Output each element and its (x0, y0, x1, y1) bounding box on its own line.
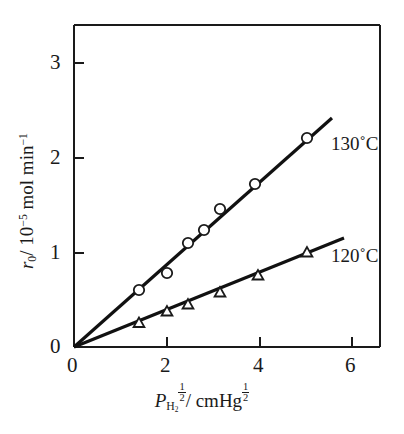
x-axis-exponent-half: 12 (178, 382, 185, 403)
y-tick-label-2: 2 (50, 147, 61, 168)
y-tick-label-1: 1 (50, 242, 61, 263)
x-tick-label-6: 6 (345, 355, 356, 376)
axis-frame (74, 25, 380, 347)
x-tick-label-0: 0 (67, 355, 78, 376)
figure-container: 3 2 1 0 0 2 4 6 130˚C 120˚C PH212/ cmHg1… (0, 0, 404, 434)
y-axis-subscript: 0 (26, 256, 39, 262)
series-label-120c: 120˚C (331, 246, 379, 265)
y-axis-symbol: r (16, 262, 37, 269)
x-axis-symbol: P (155, 390, 167, 411)
y-axis-rest: / 10 (16, 227, 37, 256)
y-axis-exponent: −5 (17, 214, 30, 227)
y-axis-ticks (74, 63, 84, 253)
series-label-130c: 130˚C (331, 134, 379, 153)
y-axis-unit-exponent: −1 (17, 133, 30, 146)
x-tick-label-2: 2 (160, 355, 171, 376)
x-axis-ticks (167, 337, 352, 347)
x-axis-title: PH212/ cmHg12 (0, 382, 404, 413)
plot-area (0, 0, 404, 434)
y-tick-label-0: 0 (50, 336, 61, 357)
x-axis-unit: / cmHg (186, 390, 242, 411)
y-axis-unit: mol min (16, 146, 37, 215)
x-tick-label-4: 4 (253, 355, 264, 376)
y-axis-title: r0/ 10−5 mol min−1 (17, 91, 39, 311)
y-tick-label-3: 3 (50, 52, 61, 73)
x-axis-unit-exponent-half: 12 (242, 382, 249, 403)
x-axis-subscript: H2 (166, 400, 178, 413)
